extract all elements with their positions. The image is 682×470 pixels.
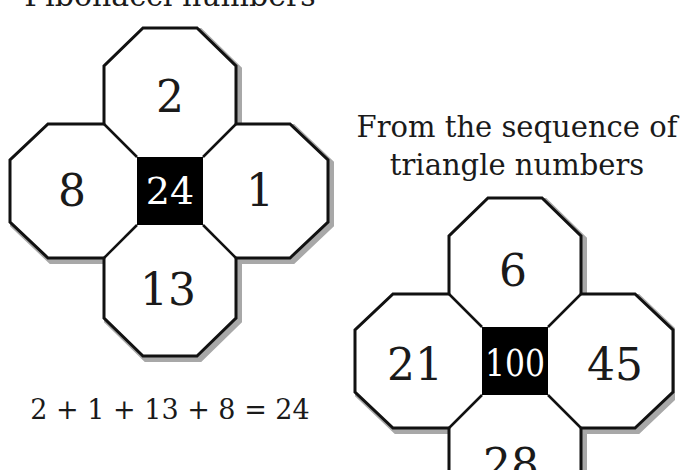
fibonacci-equation: 2 + 1 + 13 + 8 = 24	[0, 394, 340, 425]
fib-top-value: 2	[156, 71, 184, 122]
triangle-octagon-cross: 6 21 45 28 100	[345, 190, 675, 470]
triangle-title-line2: triangle numbers	[352, 146, 682, 184]
triangle-title: From the sequence of triangle numbers	[352, 108, 682, 184]
fib-bottom-value: 13	[140, 264, 196, 315]
tri-top-value: 6	[499, 245, 527, 296]
fib-right-value: 1	[246, 165, 274, 216]
tri-bottom-value: 28	[483, 439, 539, 470]
triangle-title-line1: From the sequence of	[352, 108, 682, 146]
fib-center-value: 24	[146, 169, 194, 213]
tri-right-value: 45	[587, 339, 643, 390]
tri-center-value: 100	[485, 341, 545, 385]
tri-left-value: 21	[387, 339, 443, 390]
fib-left-value: 8	[58, 165, 86, 216]
fibonacci-octagon-cross: 2 8 1 13 24	[0, 0, 345, 380]
